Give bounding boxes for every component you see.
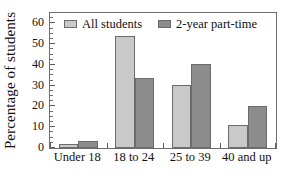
y-axis-tick-labels: 0102030405060 bbox=[20, 0, 46, 160]
y-axis-tick-label: 0 bbox=[38, 141, 44, 153]
x-axis-category-label: 18 to 24 bbox=[113, 151, 154, 164]
x-axis-category-labels: Under 1818 to 2425 to 3940 and up bbox=[49, 151, 277, 173]
bar bbox=[191, 64, 210, 148]
y-axis-tick-label: 50 bbox=[32, 37, 44, 49]
y-axis-tick-label: 60 bbox=[32, 16, 44, 28]
y-axis-tick-label: 10 bbox=[32, 120, 44, 132]
legend-item-two-year-part-time: 2-year part-time bbox=[158, 18, 257, 31]
y-axis-tick-label: 20 bbox=[32, 99, 44, 111]
bar bbox=[135, 78, 154, 148]
bar bbox=[59, 144, 78, 148]
legend-swatch-two-year-part-time bbox=[158, 20, 171, 28]
bar-group-container bbox=[50, 13, 276, 148]
bar bbox=[172, 85, 191, 148]
x-axis-category-label: 25 to 39 bbox=[170, 151, 211, 164]
bar bbox=[115, 36, 134, 148]
x-axis-tick bbox=[220, 143, 221, 148]
legend-label-two-year-part-time: 2-year part-time bbox=[176, 18, 257, 31]
legend-swatch-all-students bbox=[64, 20, 77, 28]
bar-chart-figure: Percentage of students 0102030405060 All… bbox=[0, 0, 294, 188]
x-axis-tick bbox=[163, 143, 164, 148]
x-axis-tick bbox=[50, 143, 51, 148]
y-axis-title: Percentage of students bbox=[4, 11, 19, 148]
plot-area: All students 2-year part-time bbox=[49, 12, 277, 149]
y-axis-tick-label: 30 bbox=[32, 79, 44, 91]
bar bbox=[228, 125, 247, 148]
x-axis-tick bbox=[107, 143, 108, 148]
legend-label-all-students: All students bbox=[82, 18, 142, 31]
legend-item-all-students: All students bbox=[64, 18, 142, 31]
bar bbox=[248, 106, 267, 148]
x-axis-category-label: 40 and up bbox=[222, 151, 271, 164]
x-axis-category-label: Under 18 bbox=[54, 151, 101, 164]
x-axis-tick bbox=[275, 143, 276, 148]
y-axis-title-container: Percentage of students bbox=[0, 0, 22, 160]
bar bbox=[78, 141, 97, 148]
chart-legend: All students 2-year part-time bbox=[64, 18, 257, 31]
y-axis-tick-label: 40 bbox=[32, 58, 44, 70]
